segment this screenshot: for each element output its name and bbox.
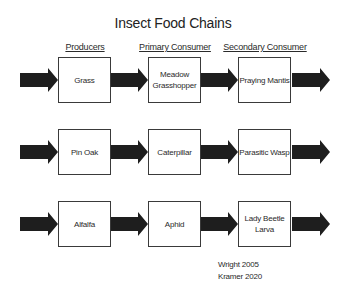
primary-consumer-box: Caterpillar (148, 129, 201, 175)
producer-label: Alfalfa (74, 219, 95, 230)
producer-label: Pin Oak (71, 147, 98, 158)
energy-flow-arrow-icon (200, 68, 238, 92)
secondary-consumer-label: Praying Mantis (239, 75, 289, 86)
producer-box: Grass (58, 57, 111, 103)
secondary-consumer-label: Parasitic Wasp (239, 147, 289, 158)
energy-flow-arrow-icon (292, 212, 330, 236)
column-header-secondary-consumer: Secondary Consumer (220, 42, 310, 52)
secondary-consumer-box: Parasitic Wasp (238, 129, 291, 175)
energy-flow-arrow-icon (200, 212, 238, 236)
secondary-consumer-box: Praying Mantis (238, 57, 291, 103)
energy-flow-arrow-icon (200, 140, 238, 164)
energy-flow-arrow-icon (292, 140, 330, 164)
energy-flow-arrow-icon (20, 140, 58, 164)
energy-flow-arrow-icon (110, 212, 148, 236)
secondary-consumer-label: Lady Beetle Larva (239, 213, 290, 235)
energy-flow-arrow-icon (20, 212, 58, 236)
energy-flow-arrow-icon (110, 140, 148, 164)
diagram-title: Insect Food Chains (0, 15, 346, 31)
energy-flow-arrow-icon (110, 68, 148, 92)
producer-box: Pin Oak (58, 129, 111, 175)
primary-consumer-label: Caterpillar (157, 147, 191, 158)
primary-consumer-box: Aphid (148, 201, 201, 247)
citation: Kramer 2020 (218, 272, 262, 281)
producer-box: Alfalfa (58, 201, 111, 247)
primary-consumer-label: Aphid (165, 219, 184, 230)
secondary-consumer-box: Lady Beetle Larva (238, 201, 291, 247)
producer-label: Grass (74, 75, 94, 86)
citation: Wright 2005 (218, 260, 259, 269)
primary-consumer-box: Meadow Grasshopper (148, 57, 201, 103)
energy-flow-arrow-icon (292, 68, 330, 92)
column-header-producers: Producers (40, 42, 130, 52)
primary-consumer-label: Meadow Grasshopper (149, 69, 200, 91)
column-header-primary-consumer: Primary Consumer (130, 42, 220, 52)
energy-flow-arrow-icon (20, 68, 58, 92)
